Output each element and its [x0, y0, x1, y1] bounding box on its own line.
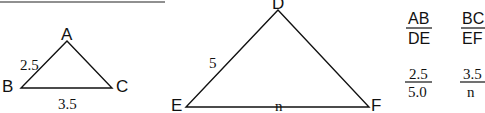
ratio-1-num-value: 2.5: [409, 66, 428, 82]
ratio-2-numerator: BC: [462, 10, 484, 27]
ratio-1-numerator: AB: [408, 10, 429, 27]
side-de-length: 5: [209, 55, 217, 71]
vertex-label-b: B: [2, 77, 13, 96]
vertex-label-c: C: [116, 77, 128, 96]
ratio-1-denominator: DE: [408, 30, 430, 47]
ratio-2-den-value: n: [467, 84, 475, 100]
side-ef-length: n: [275, 98, 283, 113]
vertex-label-e: E: [171, 96, 182, 113]
vertex-label-d: D: [272, 0, 284, 13]
similar-triangles-diagram: A B C 2.5 3.5 D E F 5 n AB DE 2.5 5.0 BC…: [0, 0, 485, 113]
vertex-label-a: A: [61, 25, 73, 44]
side-ab-length: 2.5: [20, 57, 39, 73]
side-bc-length: 3.5: [58, 96, 77, 112]
ratio-1-den-value: 5.0: [408, 84, 427, 100]
ratio-2-denominator: EF: [462, 30, 483, 47]
ratio-2-num-value: 3.5: [463, 66, 482, 82]
vertex-label-f: F: [371, 96, 381, 113]
